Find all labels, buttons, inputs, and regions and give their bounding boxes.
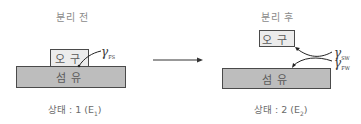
before-gamma-fs-leader <box>79 51 101 66</box>
transition-arrow-icon <box>153 58 203 63</box>
diagram-lines <box>0 0 361 124</box>
after-gamma-fw-leader <box>292 58 332 68</box>
after-gamma-sw-leader <box>295 47 332 56</box>
interface-point-icon <box>78 65 81 68</box>
